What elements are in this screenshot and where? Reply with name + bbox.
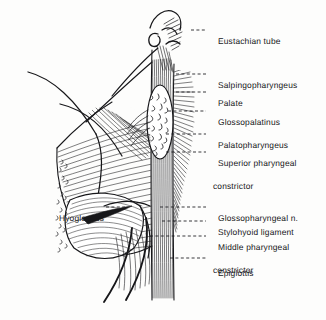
eustachian-hatching [164, 18, 182, 50]
label-text: Hyoglossus [59, 213, 104, 223]
label-text: Glossopalatinus [218, 117, 280, 127]
label-text-continuation: constrictor [208, 181, 297, 193]
illustration-ink [28, 11, 206, 302]
eustachian-tube-hook [149, 11, 181, 47]
palate-oval [147, 85, 173, 159]
label-text: Eustachian tube [218, 36, 281, 46]
anatomical-figure: Eustachian tube Salpingopharyngeus Palat… [0, 0, 326, 320]
label-text: Superior pharyngeal [218, 158, 297, 168]
label-hyoglossus: Hyoglossus [24, 201, 104, 236]
glossopalatinus-fibers [127, 110, 149, 146]
superior-constrictor-bristles [174, 62, 194, 232]
label-epiglottis: Epiglottis [208, 256, 254, 291]
label-text: Epiglottis [218, 268, 254, 278]
label-text: Middle pharyngeal [218, 242, 289, 252]
label-eustachian-tube: Eustachian tube [208, 24, 281, 59]
